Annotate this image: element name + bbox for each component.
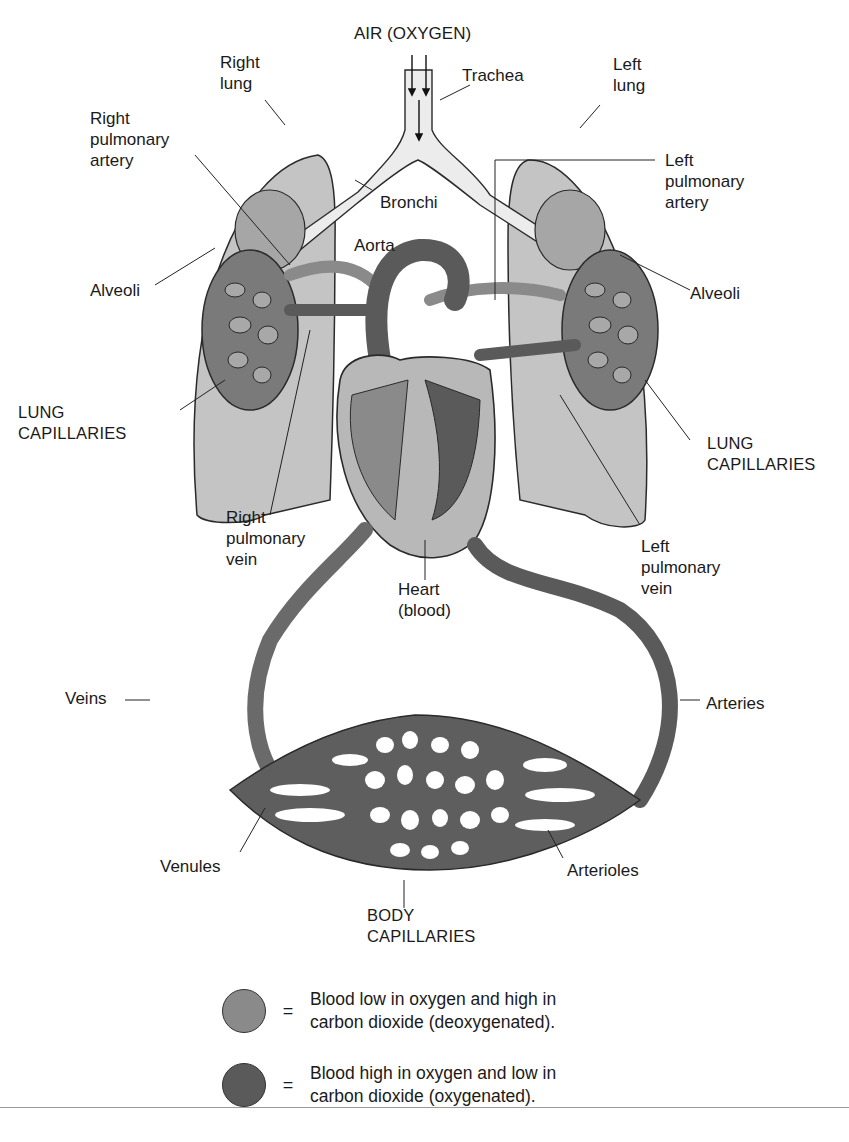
label-venules: Venules <box>160 856 221 877</box>
label-arterioles: Arterioles <box>567 860 639 881</box>
label-alveoli-left-side: Alveoli <box>90 280 140 301</box>
label-heart: Heart (blood) <box>398 579 451 621</box>
label-lung-capillaries-left-side: LUNG CAPILLARIES <box>18 402 127 444</box>
label-right-pulmonary-vein: Right pulmonary vein <box>226 507 305 570</box>
legend-row-deoxygenated: = Blood low in oxygen and high in carbon… <box>222 988 690 1034</box>
lung-capillaries-left <box>562 250 658 410</box>
label-arteries: Arteries <box>706 693 765 714</box>
label-lung-capillaries-right-side: LUNG CAPILLARIES <box>707 433 816 475</box>
label-right-pulmonary-artery: Right pulmonary artery <box>90 108 169 171</box>
bottom-divider <box>0 1107 849 1108</box>
legend-text-deoxygenated: Blood low in oxygen and high in carbon d… <box>310 988 690 1034</box>
label-aorta: Aorta <box>354 235 395 256</box>
legend-equals: = <box>266 1001 310 1022</box>
label-left-pulmonary-vein: Left pulmonary vein <box>641 536 720 599</box>
deoxygenated-swatch-icon <box>222 989 266 1033</box>
label-left-lung: Left lung <box>613 54 645 96</box>
title-air-oxygen: AIR (OXYGEN) <box>354 23 471 44</box>
label-veins: Veins <box>65 688 107 709</box>
oxygenated-swatch-icon <box>222 1063 266 1107</box>
label-body-capillaries: BODY CAPILLARIES <box>367 905 476 947</box>
label-bronchi: Bronchi <box>380 192 438 213</box>
label-alveoli-right-side: Alveoli <box>690 283 740 304</box>
label-trachea: Trachea <box>462 65 524 86</box>
legend-equals: = <box>266 1075 310 1096</box>
legend-text-oxygenated: Blood high in oxygen and low in carbon d… <box>310 1062 690 1108</box>
label-left-pulmonary-artery: Left pulmonary artery <box>665 150 744 213</box>
aorta <box>376 250 458 360</box>
legend-row-oxygenated: = Blood high in oxygen and low in carbon… <box>222 1062 690 1108</box>
label-right-lung: Right lung <box>220 52 260 94</box>
